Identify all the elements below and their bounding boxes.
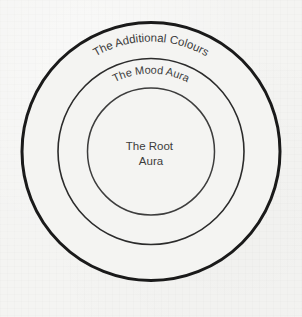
concentric-aura-diagram: The Additional Colours The Mood Aura The…: [0, 0, 302, 317]
inner-ring-label-line1: The Root: [126, 140, 174, 152]
inner-ring-label-line2: Aura: [139, 155, 164, 167]
diagram-canvas: The Additional Colours The Mood Aura The…: [0, 0, 302, 317]
